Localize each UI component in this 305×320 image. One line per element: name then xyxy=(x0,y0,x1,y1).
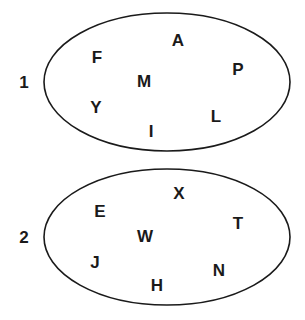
set-1-label: 1 xyxy=(19,73,28,92)
set-1: 1 A F P M Y L I xyxy=(19,13,290,151)
set-2-member: E xyxy=(94,202,105,221)
set-2-label: 2 xyxy=(19,228,28,247)
set-1-member: M xyxy=(137,72,151,91)
set-2-member: X xyxy=(173,184,185,203)
set-2: 2 X E T W J N H xyxy=(19,169,290,305)
set-1-member: L xyxy=(211,107,221,126)
set-1-member: Y xyxy=(90,98,102,117)
set-1-member: I xyxy=(149,122,154,141)
set-1-member: P xyxy=(232,60,243,79)
set-2-member: H xyxy=(151,276,163,295)
set-2-member: N xyxy=(213,261,225,280)
set-1-member: F xyxy=(92,48,102,67)
set-2-ellipse xyxy=(44,169,290,305)
set-2-member: W xyxy=(137,227,154,246)
set-1-member: A xyxy=(172,31,184,50)
set-2-member: J xyxy=(90,253,99,272)
set-1-ellipse xyxy=(44,13,290,151)
set-2-member: T xyxy=(233,214,244,233)
sets-diagram: 1 A F P M Y L I 2 X E T W J N H xyxy=(0,0,305,320)
